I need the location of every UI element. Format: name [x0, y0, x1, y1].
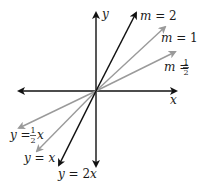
svg-text:m =: m =	[164, 60, 193, 74]
frac-denominator-lower: 2	[30, 136, 35, 145]
label-y-half-x: y = 1 2 x	[9, 126, 44, 145]
frac-numerator-lower: 1	[30, 126, 35, 135]
y-axis-label: y	[101, 7, 109, 21]
frac-numerator: 1	[183, 58, 188, 67]
line-slope-1-lower	[37, 91, 96, 151]
frac-x: x	[37, 128, 44, 142]
line-slope-2-lower	[59, 91, 96, 165]
label-y-2x: y = 2x	[57, 167, 97, 181]
label-m-1: m = 1	[161, 31, 198, 45]
line-slope-2-upper	[96, 13, 136, 91]
line-slope-1-upper	[96, 27, 165, 91]
frac-denominator: 2	[183, 68, 188, 77]
lines	[19, 13, 175, 165]
label-m-2: m = 2	[140, 9, 177, 23]
label-m-half: m = 1 2	[164, 58, 193, 77]
x-axis-label: x	[170, 93, 177, 107]
label-y-x: y = x	[23, 151, 55, 165]
slope-diagram: y x m = 2 m = 1 m = 1 2 y = 1 2 x y = x …	[0, 0, 200, 189]
line-slope-half-lower	[19, 91, 96, 128]
